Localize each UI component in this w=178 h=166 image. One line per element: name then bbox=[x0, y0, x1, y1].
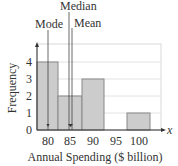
x-tick-80: 80 bbox=[42, 134, 54, 148]
x-axis-arrow-icon bbox=[161, 128, 166, 132]
x-tick-90: 90 bbox=[87, 134, 99, 148]
bar-80 bbox=[37, 62, 58, 130]
histogram-chart: Mode Median Mean 0 1 2 3 4 80 85 90 95 1… bbox=[0, 0, 178, 166]
y-tick-labels: 0 1 2 3 4 bbox=[26, 55, 32, 137]
median-label: Median bbox=[60, 0, 97, 13]
x-axis-title: Annual Spending ($ billion) bbox=[28, 150, 163, 164]
y-tick-3: 3 bbox=[26, 72, 32, 86]
mean-label: Mean bbox=[74, 16, 101, 30]
y-tick-1: 1 bbox=[26, 106, 32, 120]
x-tick-85: 85 bbox=[64, 134, 76, 148]
y-tick-4: 4 bbox=[26, 55, 32, 69]
x-tick-100: 100 bbox=[130, 134, 148, 148]
y-tick-2: 2 bbox=[26, 89, 32, 103]
bar-90 bbox=[82, 79, 104, 130]
y-axis-title: Frequency bbox=[5, 63, 19, 114]
x-tick-95: 95 bbox=[110, 134, 122, 148]
x-variable-label: x bbox=[166, 123, 173, 137]
mode-label: Mode bbox=[35, 17, 63, 31]
x-tick-labels: 80 85 90 95 100 bbox=[42, 134, 148, 148]
bar-100 bbox=[127, 113, 150, 130]
y-tick-0: 0 bbox=[26, 123, 32, 137]
